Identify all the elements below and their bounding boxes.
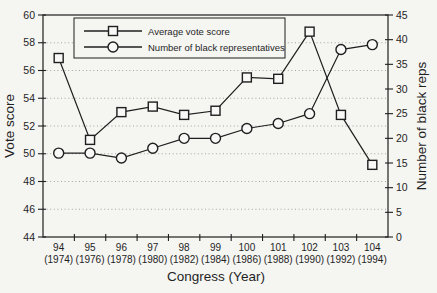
left-axis-title: Vote score: [2, 94, 17, 158]
right-axis-tick-label: 20: [396, 132, 408, 144]
left-axis-tick-label: 44: [23, 231, 35, 243]
x-congress-label: 98: [179, 242, 191, 253]
data-point-circle-marker: [148, 143, 158, 153]
left-axis-tick-label: 56: [23, 64, 35, 76]
data-point-square-marker: [117, 108, 126, 117]
x-congress-label: 104: [364, 242, 381, 253]
left-axis-tick-label: 48: [23, 175, 35, 187]
data-point-circle-marker: [273, 119, 283, 129]
x-year-label: (1984): [201, 254, 230, 265]
left-axis-tick-label: 46: [23, 203, 35, 215]
legend-square-marker-icon: [109, 27, 118, 36]
right-axis-tick-label: 35: [396, 58, 408, 70]
left-axis-tick-label: 60: [23, 9, 35, 21]
x-congress-label: 96: [116, 242, 128, 253]
right-axis-tick-label: 5: [396, 206, 402, 218]
data-point-square-marker: [368, 160, 377, 169]
right-axis-tick-label: 25: [396, 107, 408, 119]
left-axis-tick-label: 50: [23, 147, 35, 159]
legend-label-black-reps: Number of black representatives: [148, 42, 285, 53]
data-point-circle-marker: [54, 148, 64, 158]
data-point-circle-marker: [305, 109, 315, 119]
data-point-square-marker: [242, 73, 251, 82]
x-congress-label: 102: [301, 242, 318, 253]
data-point-square-marker: [336, 110, 345, 119]
data-point-square-marker: [211, 106, 220, 115]
x-axis-title: Congress (Year): [167, 269, 265, 284]
x-year-label: (1980): [138, 254, 167, 265]
data-point-circle-marker: [242, 123, 252, 133]
x-year-label: (1986): [232, 254, 261, 265]
legend-circle-marker-icon: [108, 42, 118, 52]
data-point-square-marker: [54, 54, 63, 63]
data-point-circle-marker: [367, 40, 377, 50]
data-point-square-marker: [274, 74, 283, 83]
legend: Average vote score Number of black repre…: [74, 18, 285, 58]
x-year-label: (1994): [358, 254, 387, 265]
left-axis-tick-label: 52: [23, 120, 35, 132]
data-point-circle-marker: [179, 133, 189, 143]
data-point-circle-marker: [85, 148, 95, 158]
right-axis-tick-label: 40: [396, 33, 408, 45]
left-axis-tick-label: 54: [23, 92, 35, 104]
x-congress-label: 99: [210, 242, 222, 253]
x-year-label: (1990): [295, 254, 324, 265]
chart-figure: 44464850525456586005101520253035404594(1…: [0, 0, 437, 293]
x-year-label: (1988): [264, 254, 293, 265]
x-congress-label: 101: [270, 242, 287, 253]
right-axis-title: Number of black reps: [414, 62, 429, 191]
data-point-square-marker: [305, 27, 314, 36]
data-point-circle-marker: [116, 153, 126, 163]
x-year-label: (1976): [76, 254, 105, 265]
x-congress-label: 95: [84, 242, 96, 253]
x-congress-label: 94: [53, 242, 65, 253]
x-year-label: (1992): [327, 254, 356, 265]
data-point-circle-marker: [336, 45, 346, 55]
gridlines-layer: [43, 43, 388, 210]
dual-axis-line-chart: 44464850525456586005101520253035404594(1…: [0, 0, 437, 293]
data-point-square-marker: [180, 110, 189, 119]
right-axis-tick-label: 45: [396, 9, 408, 21]
x-congress-label: 97: [147, 242, 159, 253]
left-axis-tick-label: 58: [23, 36, 35, 48]
right-axis-tick-label: 30: [396, 83, 408, 95]
data-point-square-marker: [86, 135, 95, 144]
data-point-circle-marker: [211, 133, 221, 143]
data-point-square-marker: [148, 102, 157, 111]
right-axis-tick-label: 10: [396, 181, 408, 193]
legend-label-vote-score: Average vote score: [148, 26, 230, 37]
x-year-label: (1982): [170, 254, 199, 265]
x-year-label: (1978): [107, 254, 136, 265]
right-axis-tick-label: 0: [396, 231, 402, 243]
right-axis-tick-label: 15: [396, 157, 408, 169]
x-congress-label: 100: [239, 242, 256, 253]
x-year-label: (1974): [44, 254, 73, 265]
x-congress-label: 103: [333, 242, 350, 253]
